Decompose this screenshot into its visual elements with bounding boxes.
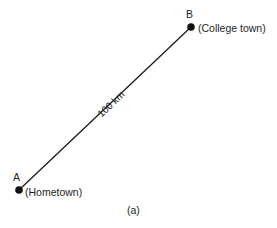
point-b-name: (College town)	[198, 23, 266, 34]
point-b-letter: B	[186, 9, 193, 20]
point-a-letter: A	[13, 172, 20, 183]
point-a-name: (Hometown)	[25, 187, 82, 198]
point-b-dot	[187, 23, 195, 31]
point-a-dot	[15, 186, 23, 194]
figure-caption: (a)	[127, 205, 140, 216]
